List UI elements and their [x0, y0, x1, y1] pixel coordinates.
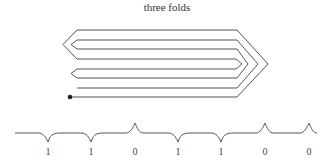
- sequence-label: 1: [171, 145, 185, 159]
- folded-strip-path: [63, 30, 268, 97]
- sequence-label: 1: [41, 145, 55, 159]
- start-dot: [68, 95, 73, 100]
- sequence-label: 1: [214, 145, 228, 159]
- fold-diagram: [0, 0, 334, 167]
- crease-wave-line: [15, 123, 317, 142]
- sequence-label: 0: [258, 145, 272, 159]
- sequence-label: 0: [302, 145, 316, 159]
- sequence-label: 1: [84, 145, 98, 159]
- sequence-label: 0: [128, 145, 142, 159]
